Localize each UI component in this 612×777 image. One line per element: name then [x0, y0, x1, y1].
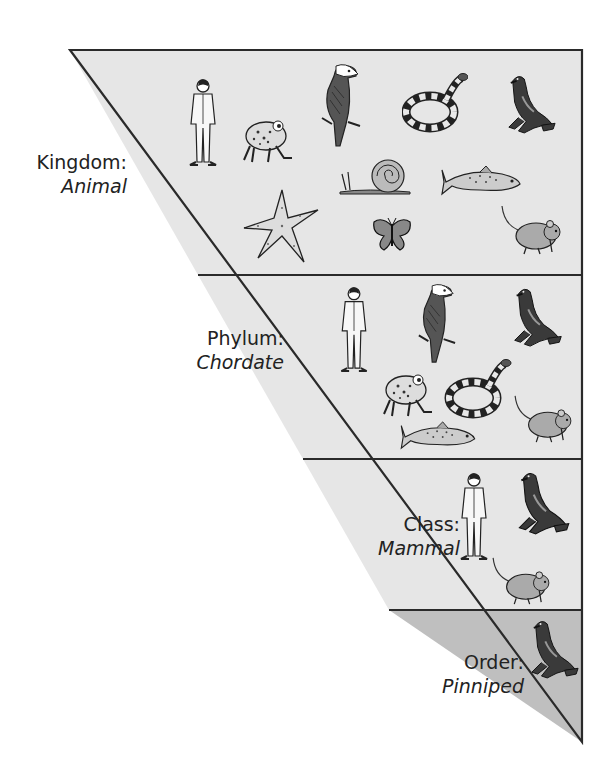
- label-class: Class: Mammal: [378, 512, 460, 560]
- rank-name: Order:: [442, 650, 524, 674]
- label-order: Order: Pinniped: [442, 650, 524, 698]
- rank-name: Class:: [378, 512, 460, 536]
- label-kingdom: Kingdom: Animal: [37, 150, 127, 198]
- taxon-name: Mammal: [378, 536, 460, 560]
- rank-name: Kingdom:: [37, 150, 127, 174]
- taxon-name: Animal: [37, 174, 127, 198]
- rank-name: Phylum:: [196, 326, 284, 350]
- band-kingdom: [70, 50, 582, 275]
- label-phylum: Phylum: Chordate: [196, 326, 284, 374]
- taxon-name: Pinniped: [442, 674, 524, 698]
- taxon-name: Chordate: [196, 350, 284, 374]
